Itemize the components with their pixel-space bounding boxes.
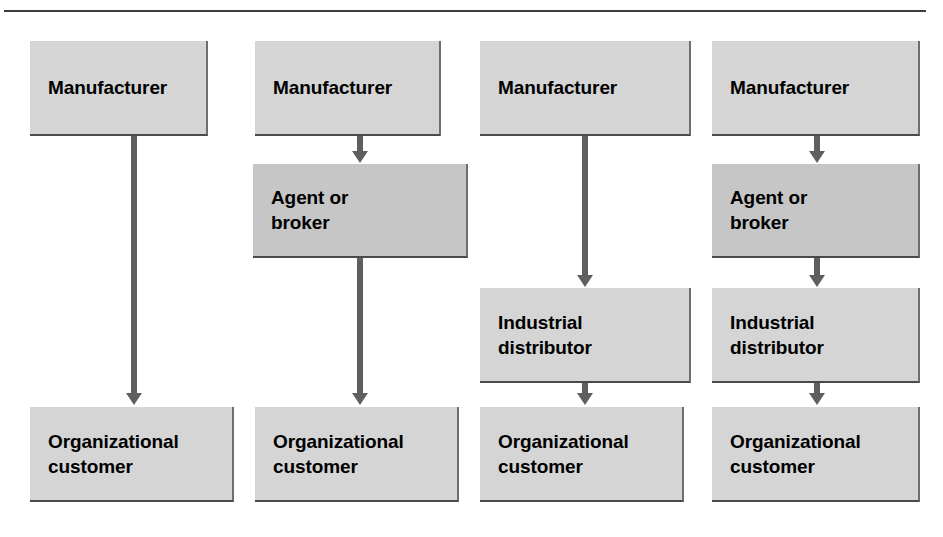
node-organizational-customer: Organizational customer — [712, 407, 920, 502]
arrow-manufacturer-to-agent — [814, 136, 820, 152]
channel-column-4: Manufacturer Agent or broker Industrial … — [0, 0, 943, 537]
node-label-line: Agent or — [730, 185, 807, 210]
node-label-line: customer — [730, 454, 815, 479]
arrowhead-icon — [809, 393, 825, 405]
arrow-agent-to-distributor — [814, 258, 820, 276]
channel-diagram: Manufacturer Organizational customer Man… — [0, 0, 943, 537]
node-label-line: Industrial — [730, 310, 815, 335]
arrow-distributor-to-customer — [814, 383, 820, 394]
node-label-line: broker — [730, 210, 789, 235]
arrowhead-icon — [809, 151, 825, 163]
arrowhead-icon — [809, 275, 825, 287]
node-label-line: distributor — [730, 335, 824, 360]
node-agent-or-broker: Agent or broker — [712, 164, 920, 258]
node-industrial-distributor: Industrial distributor — [712, 288, 920, 383]
node-label-line: Manufacturer — [730, 75, 849, 100]
node-label-line: Organizational — [730, 429, 861, 454]
node-manufacturer: Manufacturer — [712, 41, 920, 136]
